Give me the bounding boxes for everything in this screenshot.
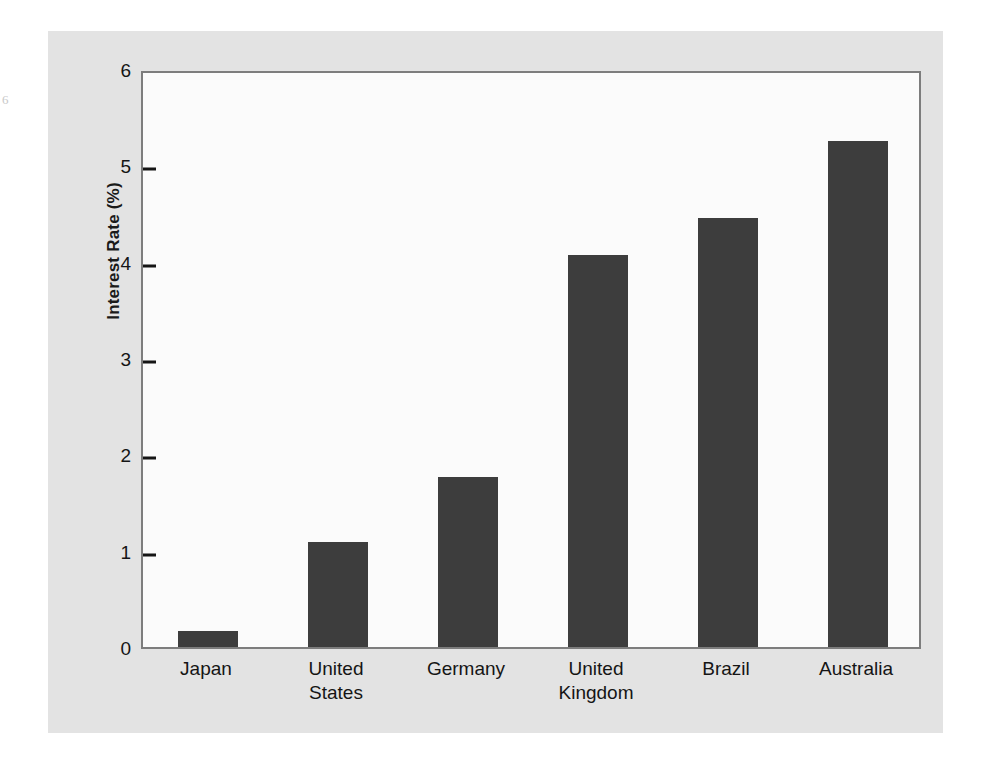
y-tick-label: 3 [91,349,131,371]
y-tick-label: 0 [91,638,131,660]
bar [568,255,628,647]
y-tick-mark [143,361,156,364]
y-tick-mark [143,457,156,460]
bar [698,218,758,647]
y-tick-mark [143,168,156,171]
y-tick-label: 6 [91,60,131,82]
y-tick-label: 5 [91,156,131,178]
x-tick-label: United States [271,657,401,705]
y-tick-label: 2 [91,445,131,467]
y-tick-label: 4 [91,253,131,275]
bar [178,631,238,647]
bar [308,542,368,647]
y-tick-mark [143,264,156,267]
x-tick-label: Germany [401,657,531,681]
bar [828,141,888,647]
x-tick-label: Brazil [661,657,791,681]
bar [438,477,498,647]
plot-area [141,71,921,649]
page-scan-artifact: 6 [2,92,14,108]
x-tick-label: United Kingdom [531,657,661,705]
x-tick-label: Japan [141,657,271,681]
y-tick-label: 1 [91,542,131,564]
x-tick-label: Australia [791,657,921,681]
y-tick-mark [143,553,156,556]
chart-figure: Interest Rate (%) 0123456 JapanUnited St… [48,31,943,733]
